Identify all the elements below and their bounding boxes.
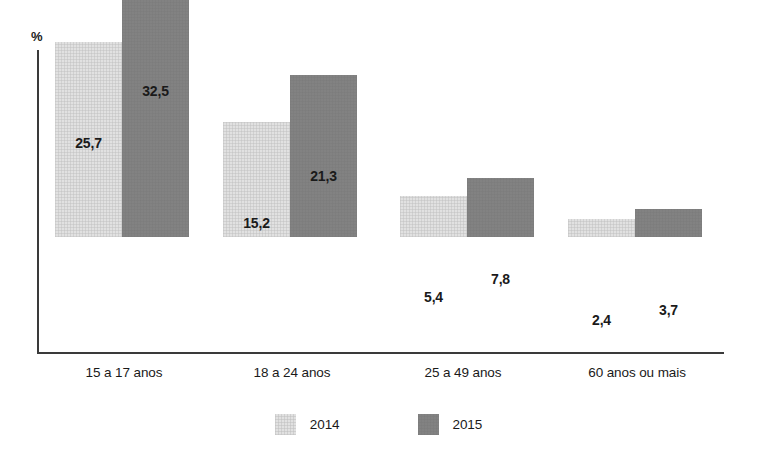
bar-2015-3 (467, 178, 534, 237)
value-label-2015-2: 21,3 (276, 169, 371, 183)
category-label-3: 25 a 49 anos (373, 366, 553, 381)
category-label-1: 15 a 17 anos (34, 366, 214, 381)
legend-swatch-icon-2014 (275, 414, 296, 435)
chart-legend: 20142015 (0, 414, 757, 435)
legend-swatch-icon-2015 (418, 414, 439, 435)
legend-label-2014: 2014 (310, 418, 340, 432)
value-label-2014-3: 5,4 (386, 290, 481, 304)
bar-2015-2 (290, 75, 357, 237)
category-label-4: 60 anos ou mais (547, 366, 727, 381)
legend-item-2015[interactable]: 2015 (418, 414, 483, 435)
legend-label-2015: 2015 (453, 418, 483, 432)
bar-2014-3 (400, 196, 467, 237)
bar-2015-4 (635, 209, 702, 237)
legend-item-2014[interactable]: 2014 (275, 414, 340, 435)
bar-2015-1 (122, 0, 189, 237)
value-label-2015-4: 3,7 (621, 303, 716, 317)
bar-chart: % 25,732,515,221,35,47,82,43,7 15 a 17 a… (0, 0, 757, 470)
plot-area: 25,732,515,221,35,47,82,43,7 (0, 0, 757, 354)
category-label-2: 18 a 24 anos (202, 366, 382, 381)
value-label-2015-3: 7,8 (453, 272, 548, 286)
value-label-2015-1: 32,5 (108, 84, 203, 98)
bar-2014-4 (568, 219, 635, 237)
